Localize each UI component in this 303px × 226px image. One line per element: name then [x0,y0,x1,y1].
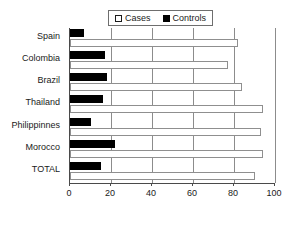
bar-cases-total [70,172,255,180]
x-tick-mark-100 [274,183,275,186]
y-axis-label-colombia: Colombia [0,53,60,63]
bar-cases-morocco [70,150,263,158]
legend-label-controls: Controls [173,13,207,23]
bar-controls-colombia [70,51,105,59]
x-tick-mark-0 [69,183,70,186]
plot-area [69,28,275,183]
gridline-100 [275,28,276,183]
x-axis-tick-labels: 020406080100 [0,188,303,204]
x-tick-label-100: 100 [259,188,289,198]
x-tick-mark-80 [233,183,234,186]
x-tick-label-20: 20 [95,188,125,198]
y-axis-label-total: TOTAL [0,164,60,174]
y-axis-label-spain: Spain [0,31,60,41]
bar-controls-total [70,162,101,170]
x-tick-mark-40 [151,183,152,186]
legend-label-cases: Cases [125,13,151,23]
bar-cases-brazil [70,83,242,91]
x-tick-mark-60 [192,183,193,186]
x-tick-label-0: 0 [54,188,84,198]
bar-controls-philippinnes [70,118,91,126]
x-tick-label-60: 60 [177,188,207,198]
bar-cases-philippinnes [70,128,261,136]
legend-item-controls: Controls [163,13,207,23]
y-axis-label-thailand: Thailand [0,97,60,107]
bar-controls-brazil [70,73,107,81]
bar-chart: Cases Controls SpainColombiaBrazilThaila… [0,0,303,226]
y-axis-label-morocco: Morocco [0,142,60,152]
bar-cases-colombia [70,61,228,69]
x-tick-label-80: 80 [218,188,248,198]
x-tick-mark-20 [110,183,111,186]
legend-swatch-cases-icon [115,15,122,22]
bar-controls-morocco [70,140,115,148]
chart-legend: Cases Controls [108,10,213,26]
bar-controls-thailand [70,95,103,103]
x-axis-line [69,183,275,184]
y-axis-label-brazil: Brazil [0,75,60,85]
legend-swatch-controls-icon [163,15,170,22]
bar-controls-spain [70,29,84,37]
y-axis-label-philippinnes: Philippinnes [0,120,60,130]
legend-item-cases: Cases [115,13,151,23]
x-tick-label-40: 40 [136,188,166,198]
bar-cases-spain [70,39,238,47]
y-axis-category-labels: SpainColombiaBrazilThailandPhilippinnesM… [0,28,64,183]
bar-cases-thailand [70,105,263,113]
